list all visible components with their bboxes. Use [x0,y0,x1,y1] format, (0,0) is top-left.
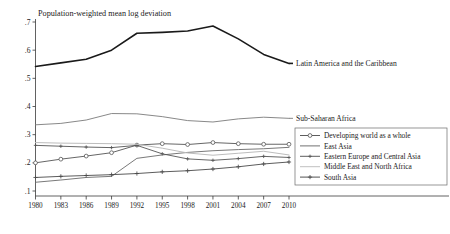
series-annotations: Latin America and the CaribbeanSub-Sahar… [289,59,397,123]
y-axis-tick-label: .4 [25,102,31,111]
x-axis-tick-label: 1992 [130,202,145,210]
data-point-marker [287,156,290,159]
x-axis-tick-label: 2010 [282,202,297,210]
data-point-marker [110,146,113,149]
chart-series [33,26,291,182]
line-chart: .1.2.3.4.5.6.719801983198619891992199519… [0,0,450,234]
data-point-marker [110,151,114,155]
series-6 [33,160,291,180]
data-point-marker [135,171,139,175]
chart-title: Population-weighted mean log deviation [38,9,171,18]
chart-container: .1.2.3.4.5.6.719801983198619891992199519… [0,0,450,234]
series-1 [36,114,290,125]
series-0 [36,26,290,67]
data-point-marker [59,145,62,148]
data-point-marker [186,157,189,160]
data-point-marker [59,174,63,178]
legend-item-label: Eastern Europe and Central Asia [324,152,421,161]
y-axis-tick-label: .2 [25,158,31,167]
series-4 [34,144,291,162]
x-axis-tick-label: 2004 [231,202,246,210]
data-point-marker [308,134,312,138]
data-point-marker [237,157,240,160]
data-point-marker [34,161,38,165]
data-point-marker [59,157,63,161]
series-annotation-label: Sub-Saharan Africa [296,114,356,123]
data-point-marker [287,142,291,146]
data-point-marker [262,155,265,158]
series-annotation-label: Latin America and the Caribbean [296,59,397,68]
series-line [36,114,290,125]
data-point-marker [262,142,266,146]
legend-item-label: East Asia [324,142,352,151]
y-axis-tick-label: .1 [25,187,31,196]
data-point-marker [84,154,88,158]
data-point-marker [236,142,240,146]
data-point-marker [186,143,190,147]
data-point-marker [211,159,214,162]
data-point-marker [85,145,88,148]
y-axis-tick-label: .7 [25,18,31,27]
x-axis-tick-label: 1980 [28,202,43,210]
data-point-marker [287,160,291,164]
x-axis-tick-label: 2001 [206,202,221,210]
data-point-marker [262,162,266,166]
data-point-marker [33,175,37,179]
series-line [36,26,290,67]
x-axis-tick-label: 1995 [155,202,170,210]
legend-item-label: South Asia [324,173,357,182]
data-point-marker [186,169,190,173]
data-point-marker [211,167,215,171]
y-axis-tick-label: .6 [25,46,31,55]
data-point-marker [211,141,215,145]
x-axis-tick-label: 1986 [79,202,94,210]
y-axis-tick-label: .5 [25,74,31,83]
data-point-marker [236,165,240,169]
data-point-marker [160,142,164,146]
legend-item-label: Developing world as a whole [324,131,411,140]
data-point-marker [34,144,37,147]
x-axis-tick-label: 2007 [256,202,271,210]
chart-legend: Developing world as a wholeEast AsiaEast… [295,128,447,185]
data-point-marker [160,170,164,174]
x-axis-tick-label: 1989 [104,202,119,210]
y-axis-tick-label: .3 [25,130,31,139]
series-line [36,162,290,177]
legend-item-label: Middle East and North Africa [324,162,413,171]
x-axis-tick-label: 1998 [180,202,195,210]
x-axis-tick-label: 1983 [54,202,69,210]
